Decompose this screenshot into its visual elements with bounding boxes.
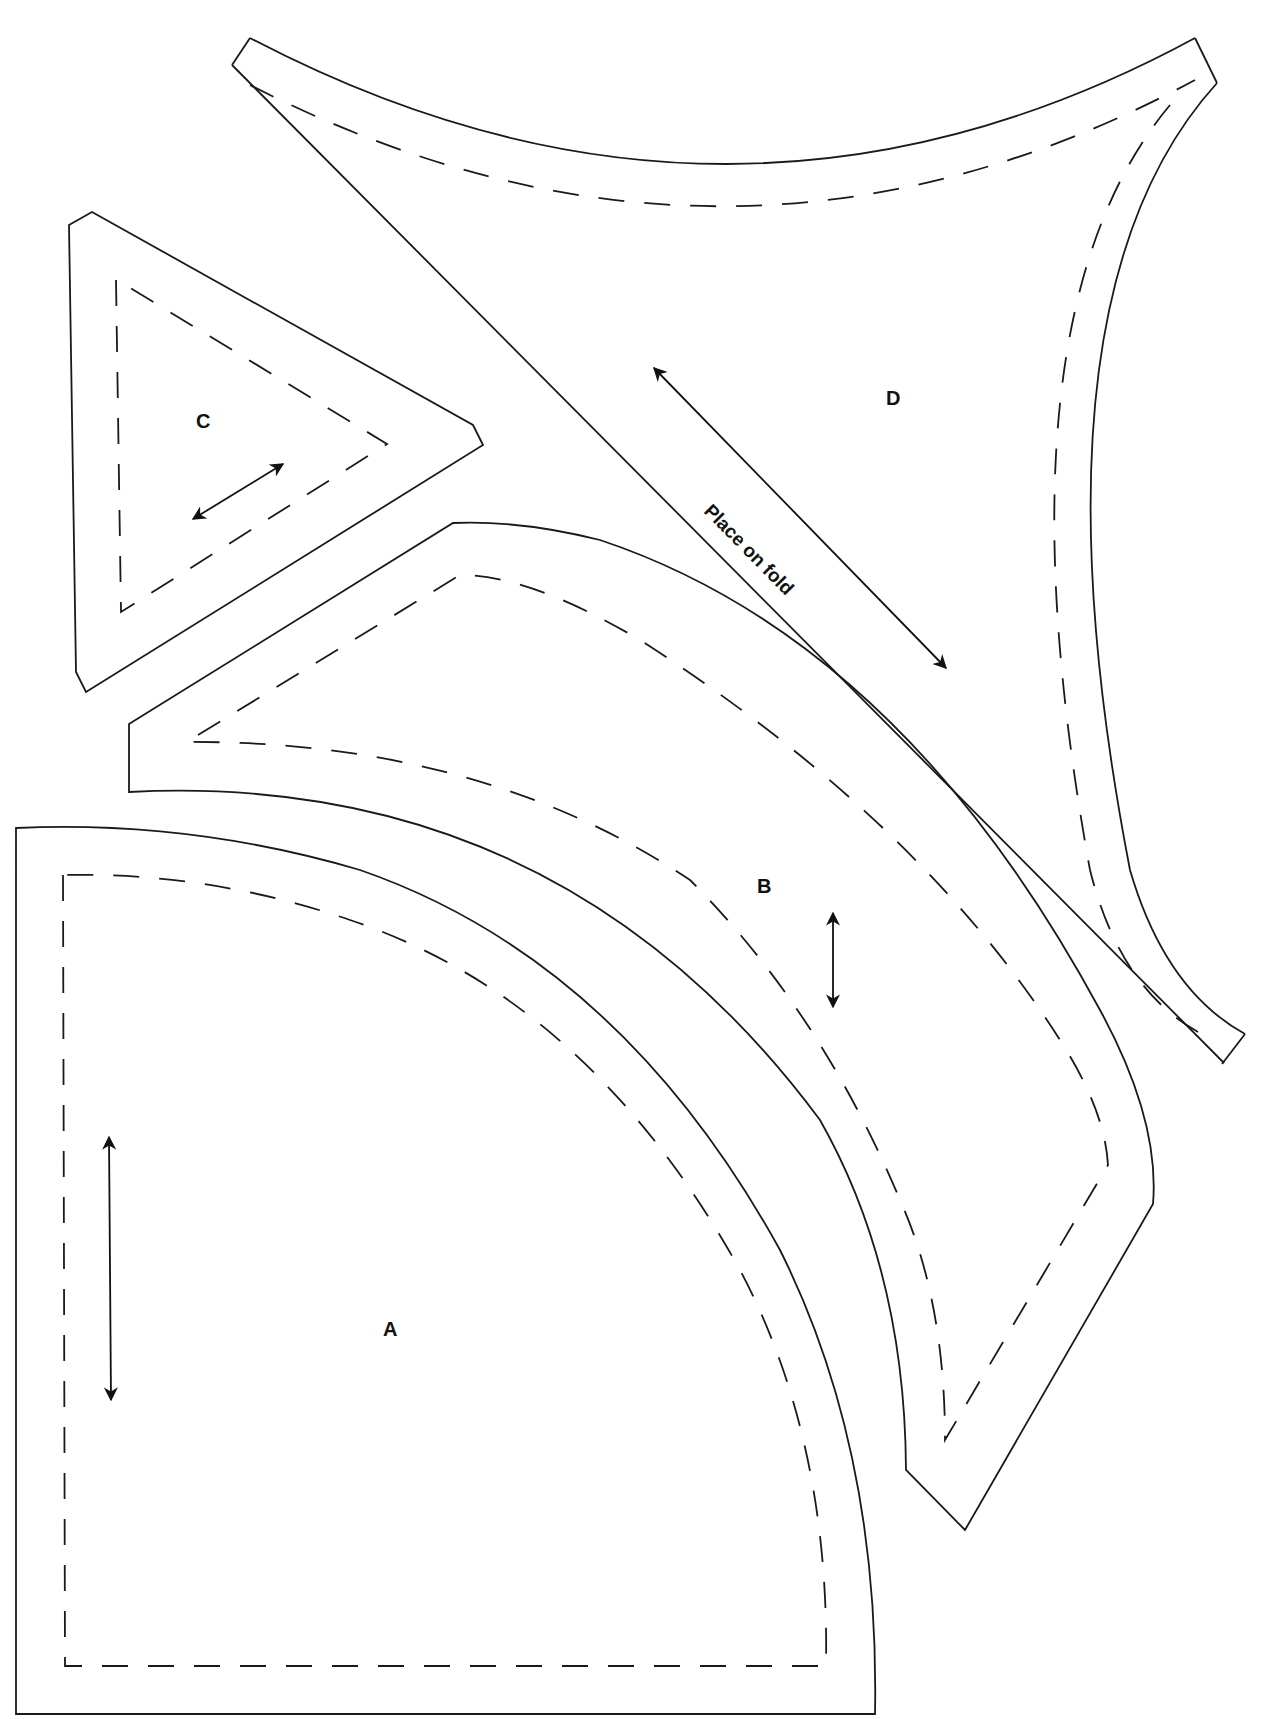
piece-d-fold-edge (232, 65, 1224, 1063)
piece-d-right-corner (1195, 38, 1217, 83)
piece-c-label: C (196, 410, 210, 432)
piece-d: Place on fold D (232, 38, 1245, 1064)
pattern-sheet: Place on fold D C B A (0, 0, 1272, 1719)
piece-c-cut-line (69, 212, 483, 692)
piece-d-sew-top (250, 80, 1195, 206)
piece-d-left-corner (232, 38, 250, 65)
piece-a-cut-line (16, 827, 875, 1714)
piece-a: A (16, 827, 875, 1714)
piece-b: B (129, 523, 1154, 1530)
piece-b-cut-line (129, 523, 1154, 1530)
piece-d-right-edge (1091, 83, 1245, 1034)
piece-c-sew-line (116, 280, 387, 612)
piece-a-label: A (383, 1318, 397, 1340)
piece-d-label: D (886, 387, 900, 409)
piece-c: C (69, 212, 483, 692)
piece-b-sew-line (185, 575, 1108, 1440)
piece-d-bottom-corner (1222, 1034, 1245, 1064)
piece-b-label: B (757, 875, 771, 897)
grainline-arrow-a (109, 1137, 111, 1400)
grainline-arrow-c (193, 464, 283, 519)
grainline-arrow-d (654, 368, 946, 668)
piece-a-sew-line (63, 875, 826, 1666)
